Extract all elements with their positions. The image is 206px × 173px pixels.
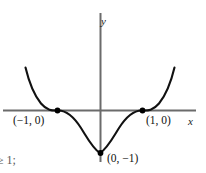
y-axis-label: y: [101, 16, 106, 27]
x-axis-label: x: [188, 116, 193, 127]
point-left-root: [55, 108, 61, 114]
clipped-text-fragment: ≥ 1;: [0, 154, 16, 166]
point-right-root: [140, 108, 146, 114]
point-vertex: [98, 150, 104, 156]
point-label-vertex: (0, −1): [107, 153, 138, 165]
point-label-right-root: (1, 0): [146, 115, 171, 127]
graph-figure: y x (−1, 0) (1, 0) (0, −1) ≥ 1;: [0, 0, 206, 173]
point-label-left-root: (−1, 0): [13, 115, 44, 127]
